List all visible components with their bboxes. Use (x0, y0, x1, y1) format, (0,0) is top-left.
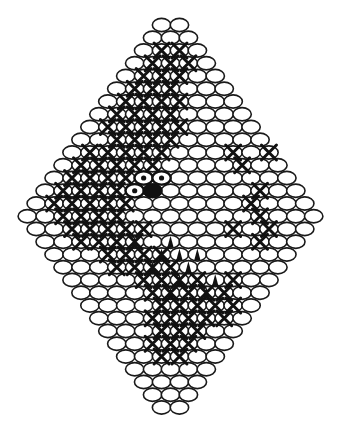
bead (206, 324, 224, 337)
bead (188, 44, 206, 57)
bead (260, 197, 278, 210)
bead (134, 44, 152, 57)
eye-pupil-bead (143, 184, 162, 198)
bead (117, 299, 135, 312)
bead (242, 273, 260, 286)
bead (170, 401, 188, 414)
bead (287, 184, 305, 197)
bead (108, 312, 126, 325)
bead (81, 273, 99, 286)
bead (197, 235, 215, 248)
bead (188, 197, 206, 210)
bead (179, 159, 197, 172)
bead (215, 82, 233, 95)
bead (197, 82, 215, 95)
bead (215, 210, 233, 223)
bead (90, 286, 108, 299)
bead (242, 171, 260, 184)
bead (215, 108, 233, 121)
bead (170, 222, 188, 235)
bead (161, 184, 179, 197)
bead (269, 210, 287, 223)
bead (36, 210, 54, 223)
bead (45, 222, 63, 235)
bead (251, 286, 269, 299)
bead (143, 363, 161, 376)
bead (72, 261, 90, 274)
bead (260, 248, 278, 261)
bead (152, 222, 170, 235)
bead (188, 171, 206, 184)
bead (242, 248, 260, 261)
bead (63, 248, 81, 261)
eye-dot-icon (159, 175, 164, 180)
bead (242, 120, 260, 133)
bead (233, 133, 251, 146)
bead (233, 286, 251, 299)
bead (197, 363, 215, 376)
bead (296, 222, 314, 235)
bead (152, 401, 170, 414)
bead (296, 197, 314, 210)
bead (72, 133, 90, 146)
bead (206, 197, 224, 210)
bead (233, 184, 251, 197)
bead-pattern-diagram (0, 0, 341, 434)
bead (45, 171, 63, 184)
bead (179, 133, 197, 146)
eye-dot-icon (141, 175, 146, 180)
bead (90, 133, 108, 146)
bead (126, 363, 144, 376)
bead (63, 273, 81, 286)
bead (251, 133, 269, 146)
bead (188, 350, 206, 363)
bead (99, 299, 117, 312)
bead (224, 324, 242, 337)
bead (233, 210, 251, 223)
bead (179, 363, 197, 376)
eye-dot-icon (132, 188, 137, 193)
bead (197, 57, 215, 70)
bead (251, 261, 269, 274)
bead (161, 31, 179, 44)
bead (215, 337, 233, 350)
bead (170, 197, 188, 210)
bead (143, 235, 161, 248)
bead (99, 273, 117, 286)
bead (99, 95, 117, 108)
bead (134, 350, 152, 363)
bead (90, 108, 108, 121)
bead (224, 95, 242, 108)
bead (18, 210, 36, 223)
bead (179, 210, 197, 223)
bead (36, 235, 54, 248)
bead (170, 375, 188, 388)
bead (206, 222, 224, 235)
bead (99, 324, 117, 337)
bead (117, 273, 135, 286)
bead (197, 261, 215, 274)
bead (188, 222, 206, 235)
bead (197, 184, 215, 197)
bead (179, 388, 197, 401)
bead (63, 146, 81, 159)
bead (134, 197, 152, 210)
bead (126, 210, 144, 223)
bead (233, 261, 251, 274)
bead (215, 159, 233, 172)
bead (72, 286, 90, 299)
bead (224, 120, 242, 133)
bead (179, 31, 197, 44)
bead (206, 95, 224, 108)
bead (233, 108, 251, 121)
bead (179, 82, 197, 95)
bead (81, 248, 99, 261)
bead (152, 197, 170, 210)
bead (206, 350, 224, 363)
bead (170, 146, 188, 159)
bead (27, 222, 45, 235)
diamond-bead-pattern (0, 0, 341, 434)
bead (152, 18, 170, 31)
bead (54, 261, 72, 274)
bead (90, 312, 108, 325)
